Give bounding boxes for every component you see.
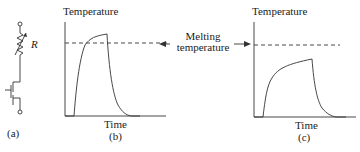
plot-c (254, 22, 356, 117)
y-axis-label-c: Temperature (252, 5, 308, 17)
transistor-icon (5, 82, 20, 110)
melting-temperature-diagram: R (a) Temperature Time (b) Melting tempe… (0, 0, 360, 152)
plot-b (65, 22, 170, 116)
resistor-label: R (30, 38, 38, 50)
bottom-terminal-icon (18, 110, 22, 114)
x-axis-label-b: Time (104, 118, 127, 130)
melting-annotation: Melting temperature (159, 30, 251, 53)
y-axis-label-b: Temperature (63, 5, 119, 17)
top-terminal-icon (18, 22, 22, 26)
temperature-curve-c (254, 59, 346, 117)
panel-label-c: (c) (298, 131, 311, 144)
panel-label-a: (a) (7, 127, 20, 140)
circuit-panel (5, 22, 27, 114)
annotation-line2: temperature (177, 41, 230, 53)
temperature-curve-b (65, 34, 140, 116)
panel-label-b: (b) (109, 130, 122, 143)
x-axis-label-c: Time (295, 119, 318, 131)
